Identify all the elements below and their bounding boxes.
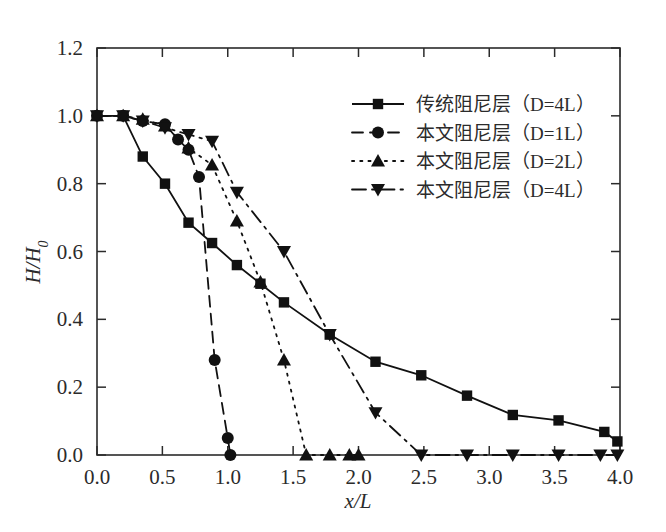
- marker-0-16: [612, 436, 622, 446]
- legend-entry-2[interactable]: 本文阻尼层（D=2L）: [352, 151, 595, 172]
- x-tick-label-4.0: 4.0: [607, 465, 633, 489]
- y-tick-label-1.2: 1.2: [57, 36, 83, 60]
- y-tick-label-0.0: 0.0: [57, 443, 83, 467]
- y-tick-label-0.2: 0.2: [57, 375, 83, 399]
- y-axis-title: H/H0: [21, 240, 51, 284]
- marker-0-15: [599, 427, 609, 437]
- marker-3-9: [368, 407, 382, 419]
- x-tick-label-3.5: 3.5: [542, 465, 568, 489]
- marker-2-8: [277, 353, 291, 365]
- legend-entry-1[interactable]: 本文阻尼层（D=1L）: [352, 123, 595, 144]
- y-tick-label-0.4: 0.4: [57, 307, 84, 331]
- legend-entry-3[interactable]: 本文阻尼层（D=4L）: [352, 180, 595, 201]
- marker-3-5: [205, 136, 219, 148]
- x-tick-label-2.5: 2.5: [411, 465, 437, 489]
- x-tick-label-1.5: 1.5: [280, 465, 306, 489]
- x-tick-label-2.0: 2.0: [345, 465, 371, 489]
- legend-marker-1: [372, 127, 384, 139]
- chart-legend: 传统阻尼层（D=4L）本文阻尼层（D=1L）本文阻尼层（D=2L）本文阻尼层（D…: [352, 94, 595, 201]
- y-tick-label-1.0: 1.0: [57, 104, 83, 128]
- marker-0-4: [183, 217, 193, 227]
- x-axis-tick-labels: 0.00.51.01.52.02.53.03.54.0: [84, 465, 633, 489]
- marker-0-12: [462, 390, 472, 400]
- marker-1-6: [193, 171, 205, 183]
- y-axis-tick-labels: 0.00.20.40.60.81.01.2: [57, 36, 84, 467]
- chart-canvas: 0.00.51.01.52.02.53.03.54.0 0.00.20.40.6…: [0, 0, 666, 532]
- marker-0-2: [138, 151, 148, 161]
- chart-figure: 0.00.51.01.52.02.53.03.54.0 0.00.20.40.6…: [0, 0, 666, 532]
- marker-1-9: [224, 449, 236, 461]
- series-line-2: [97, 116, 359, 455]
- marker-0-14: [553, 415, 563, 425]
- x-tick-label-3.0: 3.0: [476, 465, 502, 489]
- marker-2-5: [205, 158, 219, 170]
- marker-0-11: [416, 370, 426, 380]
- x-tick-label-1.0: 1.0: [215, 465, 241, 489]
- legend-label-1: 本文阻尼层（D=1L）: [416, 123, 595, 144]
- x-tick-label-0.0: 0.0: [84, 465, 110, 489]
- x-axis-title: x/L: [344, 489, 372, 513]
- y-tick-label-0.6: 0.6: [57, 240, 83, 264]
- marker-0-10: [370, 357, 380, 367]
- marker-0-3: [160, 178, 170, 188]
- marker-3-7: [277, 246, 291, 258]
- marker-2-6: [230, 214, 244, 226]
- legend-marker-0: [373, 99, 383, 109]
- y-tick-label-0.8: 0.8: [57, 172, 83, 196]
- marker-0-5: [207, 238, 217, 248]
- marker-0-8: [279, 297, 289, 307]
- legend-marker-2: [371, 154, 385, 166]
- legend-label-3: 本文阻尼层（D=4L）: [416, 180, 595, 201]
- marker-0-13: [508, 410, 518, 420]
- legend-entry-0[interactable]: 传统阻尼层（D=4L）: [352, 94, 595, 115]
- marker-0-6: [232, 260, 242, 270]
- legend-label-2: 本文阻尼层（D=2L）: [416, 151, 595, 172]
- x-tick-label-0.5: 0.5: [149, 465, 175, 489]
- series-2: [90, 109, 366, 461]
- marker-1-7: [209, 354, 221, 366]
- marker-1-8: [222, 432, 234, 444]
- svg-text:H/H0: H/H0: [21, 240, 51, 284]
- legend-label-0: 传统阻尼层（D=4L）: [416, 94, 595, 115]
